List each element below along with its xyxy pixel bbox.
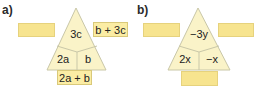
cell-top: 3c: [70, 28, 82, 40]
cell-bottom-left: 2x: [179, 53, 191, 65]
cell-bottom-left: 2a: [57, 53, 70, 65]
cell-bottom-right: b: [85, 53, 91, 65]
cell-top: −3y: [190, 28, 209, 40]
answer-box-bottom-b[interactable]: [181, 71, 218, 86]
answer-box-left-a[interactable]: [18, 23, 55, 37]
cell-bottom-right: −x: [206, 53, 218, 65]
panel-label-b: b): [137, 3, 148, 17]
answer-box-left-b[interactable]: [143, 23, 180, 37]
answer-box-bottom-a: 2a + b: [57, 70, 92, 85]
answer-box-right-b[interactable]: [218, 23, 254, 37]
triangle-b: −3y 2x −x: [168, 8, 230, 70]
panel-label-a: a): [2, 3, 13, 17]
answer-box-right-a: b + 3c: [93, 22, 128, 37]
triangle-a: 3c 2a b: [47, 8, 106, 70]
